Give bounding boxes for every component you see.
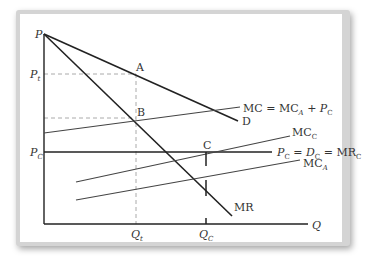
x-axis-label: Q — [312, 219, 321, 232]
point-c-label: C — [203, 139, 211, 152]
mc-c-curve — [76, 136, 290, 182]
mr-label: MR — [234, 201, 254, 214]
mc-c-label: MCC — [292, 126, 317, 141]
mc-total-label: MC = MCA + PC — [243, 102, 333, 117]
point-b-label: B — [137, 106, 145, 119]
economics-diagram: P Q Pt PC Qt QC A B C D MR MC = MCA + PC… — [0, 0, 376, 263]
pc-label: PC — [29, 146, 43, 161]
mc-a-curve — [76, 160, 300, 200]
qt-label: Qt — [131, 228, 143, 243]
demand-label: D — [242, 115, 251, 128]
qc-label: QC — [199, 228, 214, 243]
mc-a-label: MCA — [303, 157, 328, 172]
pt-label: Pt — [29, 68, 40, 83]
y-axis-label: P — [34, 28, 43, 41]
point-a-label: A — [135, 61, 145, 74]
